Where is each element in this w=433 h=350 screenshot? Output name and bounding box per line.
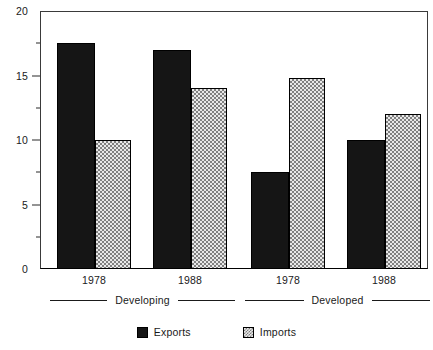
y-tick-mark-15	[32, 75, 40, 76]
legend-swatch-exports-icon	[137, 327, 148, 338]
group-bracket-developed: Developed	[245, 292, 430, 308]
bar-developing-1978-exports	[57, 43, 95, 269]
bar-developing-1978-imports	[95, 140, 131, 269]
y-tick-label-5: 5	[22, 199, 28, 210]
legend: Exports Imports	[0, 322, 433, 342]
group-label-developed: Developed	[310, 295, 366, 306]
bracket-rule-left	[245, 300, 304, 301]
bracket-rule-right	[178, 300, 235, 301]
x-label-developing-1978: 1978	[82, 275, 106, 286]
y-tick-label-10: 10	[16, 135, 28, 146]
y-tick-label-20: 20	[16, 6, 28, 17]
y-tick-mark-10	[32, 140, 40, 141]
group-bracket-developing: Developing	[50, 292, 235, 308]
bar-developed-1978-imports	[289, 78, 325, 269]
y-tick-mark-5	[32, 204, 40, 205]
x-label-developed-1988: 1988	[372, 275, 396, 286]
bar-developed-1988-imports	[385, 114, 421, 269]
bar-developing-1988-imports	[191, 88, 227, 269]
x-label-developed-1978: 1978	[276, 275, 300, 286]
bracket-rule-right	[372, 300, 431, 301]
x-label-developing-1988: 1988	[178, 275, 202, 286]
group-bracket-layer: Developing Developed	[40, 292, 428, 314]
legend-swatch-imports-icon	[243, 327, 254, 338]
bar-developed-1988-exports	[347, 140, 385, 269]
y-axis: 20 15 10 5 0	[0, 0, 40, 280]
bars-layer	[40, 11, 428, 269]
legend-label-imports: Imports	[260, 327, 296, 338]
bar-developing-1988-exports	[153, 50, 191, 269]
legend-item-imports: Imports	[243, 327, 296, 338]
bar-developed-1978-exports	[251, 172, 289, 269]
y-tick-label-15: 15	[16, 70, 28, 81]
legend-item-exports: Exports	[137, 327, 191, 338]
bracket-rule-left	[50, 300, 107, 301]
legend-label-exports: Exports	[154, 327, 191, 338]
y-tick-label-0: 0	[22, 264, 28, 275]
group-label-developing: Developing	[113, 295, 172, 306]
bar-chart: 20 15 10 5 0 1978 1988 1978 1988	[0, 0, 433, 350]
